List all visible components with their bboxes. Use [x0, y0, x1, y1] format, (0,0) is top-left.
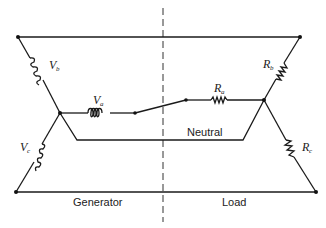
svg-text:a: a: [221, 88, 225, 96]
coil-icon: [30, 58, 41, 85]
label-vc: V c: [20, 140, 31, 155]
resistor-icon: [285, 140, 294, 157]
load-neutral-node: [262, 98, 266, 102]
label-ra: R a: [213, 81, 225, 96]
label-vb: V b: [49, 58, 60, 73]
source-va: [60, 109, 135, 117]
neutral-label: Neutral: [187, 126, 222, 138]
coil-icon: [88, 109, 102, 117]
svg-text:c: c: [27, 147, 31, 155]
circuit-diagram: V b V a V c R a R b R c Neutral Generato…: [0, 0, 326, 228]
svg-text:c: c: [309, 147, 313, 155]
svg-text:a: a: [100, 100, 104, 108]
node: [314, 190, 318, 194]
generator-neutral-node: [58, 111, 62, 115]
label-va: V a: [93, 93, 104, 108]
node: [16, 35, 20, 39]
coil-icon: [35, 144, 44, 171]
resistor-icon: [211, 97, 227, 103]
source-vb: [18, 37, 60, 113]
node: [14, 190, 18, 194]
label-rb: R b: [262, 57, 274, 72]
label-rc: R c: [301, 140, 313, 155]
svg-text:b: b: [56, 65, 60, 73]
load-ra: [186, 97, 264, 103]
switch: [133, 98, 188, 115]
load-label: Load: [222, 196, 246, 208]
generator-label: Generator: [73, 196, 123, 208]
node: [298, 35, 302, 39]
svg-text:b: b: [270, 64, 274, 72]
resistor-icon: [276, 63, 287, 80]
